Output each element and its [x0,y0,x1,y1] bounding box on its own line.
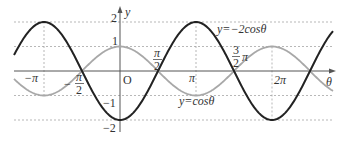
curve-label-neg2cos: y=−2cosθ [216,22,267,36]
curve-label-cos: y=cosθ [178,94,214,108]
svg-text:2: 2 [233,56,239,70]
svg-text:2: 2 [76,83,82,97]
x-tick-two-pi: 2π [274,73,287,87]
cosine-graph: y θ O 2 1 −1 −2 −π − π 2 π 2 π 3 2 π 2π … [0,0,341,141]
y-tick-neg2: −2 [103,121,116,135]
svg-text:π: π [154,46,161,60]
x-tick-pi: π [189,71,196,85]
y-tick-2: 2 [111,11,117,25]
x-axis-arrow-icon [329,69,336,74]
y-tick-neg1: −1 [103,96,116,110]
svg-text:2: 2 [154,59,160,73]
x-tick-half-pi: π 2 [153,46,162,73]
x-tick-neg-half-pi: − π 2 [64,70,84,97]
y-tick-1: 1 [112,34,118,48]
x-axis-label: θ [326,75,332,89]
origin-label: O [123,73,132,87]
svg-text:π: π [242,50,249,64]
y-axis-arrow-icon [118,6,123,13]
svg-text:3: 3 [233,43,239,57]
x-tick-neg-pi: −π [24,71,39,85]
svg-text:−: − [64,77,71,91]
y-axis-label: y [124,5,131,19]
x-tick-three-half-pi: 3 2 π [232,43,249,70]
svg-text:π: π [76,70,83,84]
